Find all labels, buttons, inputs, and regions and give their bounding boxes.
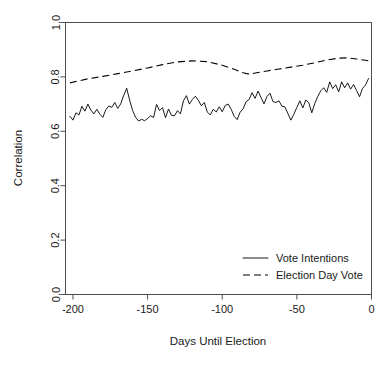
y-axis: 0.00.20.40.60.81.0 bbox=[50, 15, 66, 302]
y-tick-label: 0.8 bbox=[50, 69, 62, 84]
chart-figure: 0.00.20.40.60.81.0 -200-150-100-500 Corr… bbox=[0, 0, 390, 366]
x-axis: -200-150-100-500 bbox=[62, 295, 375, 315]
y-tick-label: 1.0 bbox=[50, 15, 62, 30]
x-axis-title: Days Until Election bbox=[170, 335, 267, 347]
series-vote-intentions bbox=[70, 79, 369, 121]
chart-legend: Vote IntentionsElection Day Vote bbox=[243, 252, 363, 281]
legend-label: Election Day Vote bbox=[276, 269, 363, 281]
x-tick-label: -100 bbox=[211, 303, 233, 315]
series-layer bbox=[70, 58, 369, 121]
x-tick-label: 0 bbox=[368, 303, 374, 315]
y-tick-label: 0.4 bbox=[50, 178, 62, 193]
x-tick-label: -200 bbox=[62, 303, 84, 315]
y-tick-label: 0.2 bbox=[50, 232, 62, 247]
y-tick-label: 0.0 bbox=[50, 287, 62, 302]
y-tick-label: 0.6 bbox=[50, 124, 62, 139]
y-axis-title: Correlation bbox=[12, 130, 24, 186]
x-tick-label: -50 bbox=[289, 303, 305, 315]
x-tick-label: -150 bbox=[137, 303, 159, 315]
series-election-day-vote bbox=[70, 58, 369, 83]
correlation-line-chart: 0.00.20.40.60.81.0 -200-150-100-500 Corr… bbox=[0, 0, 390, 366]
legend-label: Vote Intentions bbox=[276, 252, 349, 264]
